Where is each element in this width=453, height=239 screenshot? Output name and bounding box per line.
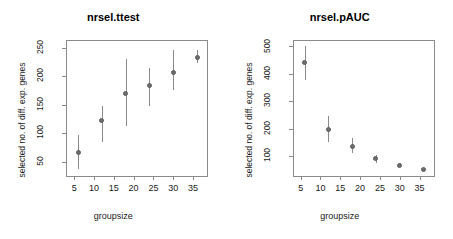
y-axis-tick-label: 200: [262, 113, 272, 143]
y-axis-tick: [62, 133, 66, 134]
x-axis-tick: [320, 176, 321, 180]
y-axis-tick: [62, 162, 66, 163]
y-axis-tick: [62, 105, 66, 106]
error-bar: [102, 106, 103, 142]
data-point: [373, 156, 378, 161]
x-axis-tick: [380, 176, 381, 180]
data-point: [147, 83, 152, 88]
data-point: [195, 55, 200, 60]
y-axis-tick: [62, 48, 66, 49]
data-point: [302, 60, 307, 65]
x-axis-tick-label: 35: [181, 183, 205, 193]
y-axis-tick-label: 50: [35, 146, 45, 176]
data-point: [326, 127, 331, 132]
x-axis-tick: [301, 176, 302, 180]
x-axis-tick: [153, 176, 154, 180]
y-axis-tick-label: 300: [262, 85, 272, 115]
x-axis-label: groupsize: [227, 211, 453, 221]
y-axis-tick: [289, 46, 293, 47]
y-axis-label: selected no. of diff. exp. genes: [17, 45, 27, 195]
x-axis: [294, 176, 434, 177]
y-axis-tick-label: 150: [35, 89, 45, 119]
plot-area: 1002003004005005101520253035: [293, 40, 435, 177]
panel-nrsel-pauc: nrsel.pAUC selected no. of diff. exp. ge…: [227, 0, 453, 239]
data-point: [171, 70, 176, 75]
y-axis-tick: [289, 156, 293, 157]
page-title: nrsel.ttest: [0, 11, 227, 23]
y-axis-tick-label: 200: [35, 60, 45, 90]
x-axis-tick: [94, 176, 95, 180]
x-axis-tick: [74, 176, 75, 180]
data-point: [76, 150, 81, 155]
x-axis-tick: [340, 176, 341, 180]
plot-area: 501001502002505101520253035: [66, 40, 208, 177]
x-axis-tick: [420, 176, 421, 180]
y-axis-tick-label: 250: [35, 32, 45, 62]
y-axis-label: selected no. of diff. exp. genes: [244, 45, 254, 195]
data-point: [397, 163, 402, 168]
y-axis-tick-label: 400: [262, 58, 272, 88]
figure-container: nrsel.ttest selected no. of diff. exp. g…: [0, 0, 453, 239]
y-axis-tick-label: 500: [262, 31, 272, 61]
x-axis-tick-label: 35: [408, 183, 432, 193]
data-point: [99, 118, 104, 123]
data-point: [123, 91, 128, 96]
data-point: [350, 144, 355, 149]
x-axis-tick: [114, 176, 115, 180]
x-axis-tick: [400, 176, 401, 180]
panel-nrsel-ttest: nrsel.ttest selected no. of diff. exp. g…: [0, 0, 227, 239]
x-axis-tick: [173, 176, 174, 180]
x-axis-label: groupsize: [0, 211, 227, 221]
data-point: [421, 167, 426, 172]
y-axis-tick: [289, 129, 293, 130]
x-axis-tick: [360, 176, 361, 180]
x-axis-tick: [193, 176, 194, 180]
y-axis-tick: [62, 76, 66, 77]
page-title: nrsel.pAUC: [227, 11, 453, 23]
x-axis: [67, 176, 207, 177]
y-axis-tick-label: 100: [35, 117, 45, 147]
y-axis-tick-label: 100: [262, 140, 272, 170]
y-axis-tick: [289, 101, 293, 102]
y-axis-tick: [289, 74, 293, 75]
x-axis-tick: [134, 176, 135, 180]
